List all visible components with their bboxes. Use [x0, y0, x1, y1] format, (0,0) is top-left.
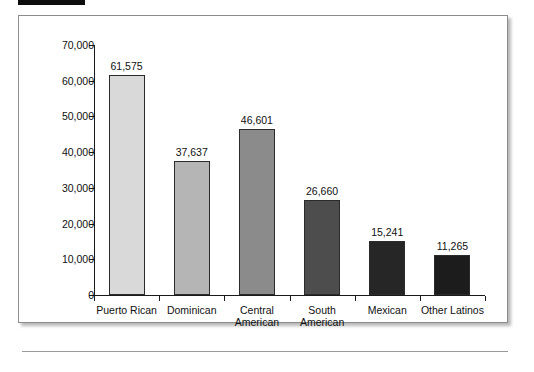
x-category-label: Puerto Rican [94, 304, 159, 316]
x-category-label: SouthAmerican [290, 304, 355, 328]
y-tick: 50,000 [19, 116, 94, 117]
bar-value-label: 61,575 [111, 61, 143, 72]
bar-column[interactable]: 26,660 [304, 44, 340, 295]
y-tick-label: 50,000 [32, 111, 94, 121]
x-tick-mark [290, 296, 291, 301]
bar-column[interactable]: 37,637 [174, 44, 210, 295]
redaction-bar [18, 0, 85, 5]
bar-column[interactable]: 61,575 [109, 44, 145, 295]
x-category-label: Mexican [355, 304, 420, 316]
y-tick: 20,000 [19, 224, 94, 225]
x-category-label: CentralAmerican [224, 304, 289, 328]
y-tick: 0 [19, 295, 94, 296]
bar-column[interactable]: 11,265 [434, 44, 470, 295]
bar-value-label: 37,637 [176, 147, 208, 158]
y-tick-label: 0 [32, 290, 94, 300]
bar-value-label: 26,660 [306, 186, 338, 197]
x-category-label-line: Mexican [355, 304, 420, 316]
x-tick-mark [355, 296, 356, 301]
x-category-label: Dominican [159, 304, 224, 316]
y-tick: 10,000 [19, 259, 94, 260]
bar[interactable] [174, 161, 210, 295]
footer-rule [22, 351, 508, 352]
x-category-label-line: South [290, 304, 355, 316]
x-category-label: Other Latinos [420, 304, 485, 316]
y-tick-label: 70,000 [32, 40, 94, 50]
figure-frame: 010,00020,00030,00040,00050,00060,00070,… [18, 15, 508, 323]
y-tick-label: 60,000 [32, 76, 94, 86]
bar[interactable] [369, 241, 405, 295]
x-category-label-line: Dominican [159, 304, 224, 316]
x-category-label-line: Other Latinos [420, 304, 485, 316]
x-tick-mark [420, 296, 421, 301]
bar-column[interactable]: 46,601 [239, 44, 275, 295]
x-category-label-line: American [290, 316, 355, 328]
y-tick-label: 40,000 [32, 147, 94, 157]
y-tick: 30,000 [19, 188, 94, 189]
y-axis-line [94, 45, 95, 296]
x-category-label-line: American [224, 316, 289, 328]
bar-column[interactable]: 15,241 [369, 44, 405, 295]
y-tick: 40,000 [19, 152, 94, 153]
x-tick-mark [159, 296, 160, 301]
bar[interactable] [239, 129, 275, 295]
bar-chart: 010,00020,00030,00040,00050,00060,00070,… [19, 16, 509, 324]
bar-value-label: 46,601 [241, 115, 273, 126]
y-tick: 60,000 [19, 81, 94, 82]
bar[interactable] [304, 200, 340, 295]
y-tick-label: 10,000 [32, 254, 94, 264]
y-tick: 70,000 [19, 45, 94, 46]
bar-value-label: 15,241 [371, 227, 403, 238]
x-category-label-line: Central [224, 304, 289, 316]
y-tick-label: 20,000 [32, 219, 94, 229]
x-tick-mark [485, 296, 486, 301]
bar[interactable] [434, 255, 470, 295]
x-category-label-line: Puerto Rican [94, 304, 159, 316]
x-tick-mark [94, 296, 95, 301]
bar[interactable] [109, 75, 145, 295]
y-tick-label: 30,000 [32, 183, 94, 193]
bar-value-label: 11,265 [437, 241, 468, 252]
x-tick-mark [224, 296, 225, 301]
